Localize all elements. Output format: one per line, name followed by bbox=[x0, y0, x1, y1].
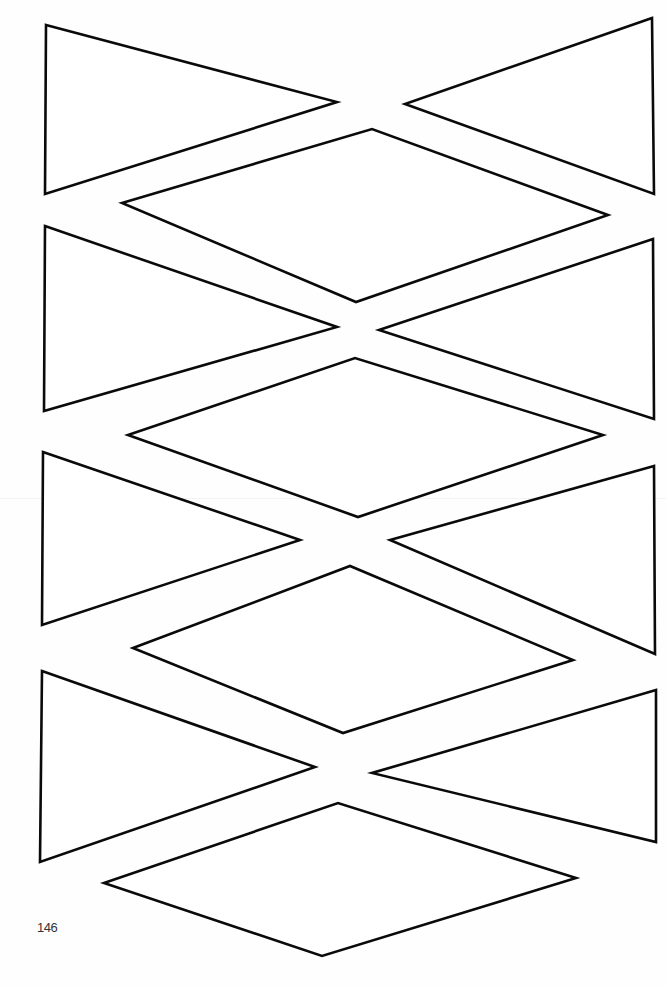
diamond-row2 bbox=[128, 358, 603, 517]
shapes-canvas bbox=[0, 0, 666, 987]
diamond-row1 bbox=[122, 129, 608, 302]
page-number: 146 bbox=[37, 920, 57, 935]
worksheet-page: 146 bbox=[0, 0, 666, 987]
triangle-left-pointing-row4 bbox=[372, 690, 656, 842]
diamond-row4 bbox=[104, 803, 576, 956]
